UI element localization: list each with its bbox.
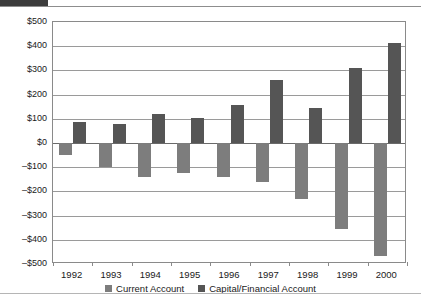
x-tick-mark-6: [289, 262, 290, 266]
x-tick-mark-0: [53, 262, 54, 266]
y-tick-label--400: –$400: [1, 234, 47, 244]
bar-1994-capital-financial-account: [152, 114, 165, 143]
bar-1997-current-account: [256, 143, 269, 182]
y-tick-label--300: –$300: [1, 210, 47, 220]
x-tick-label-2000: 2000: [363, 269, 409, 280]
x-tick-mark-3: [171, 262, 172, 266]
y-tick-label--100: –$100: [1, 161, 47, 171]
bar-1998-capital-financial-account: [309, 108, 322, 143]
bar-1993-current-account: [99, 143, 112, 167]
y-tick-label-400: $400: [1, 40, 47, 50]
legend-swatch-current: [105, 285, 112, 292]
x-tick-mark-4: [210, 262, 211, 266]
y-tick-label-0: $0: [1, 137, 47, 147]
gridline-400: [53, 46, 405, 47]
gridline--400: [53, 240, 405, 241]
y-tick-label-100: $100: [1, 113, 47, 123]
top-band-rule: [0, 6, 421, 7]
x-tick-mark-8: [368, 262, 369, 266]
bar-2000-current-account: [374, 143, 387, 256]
y-tick-label-300: $300: [1, 64, 47, 74]
bar-1993-capital-financial-account: [113, 124, 126, 143]
bottom-rule: [0, 293, 421, 294]
y-tick-label--200: –$200: [1, 185, 47, 195]
bar-1992-current-account: [59, 143, 72, 155]
bar-1992-capital-financial-account: [73, 122, 86, 143]
bar-1998-current-account: [295, 143, 308, 199]
bar-1999-current-account: [335, 143, 348, 229]
y-tick-label-200: $200: [1, 89, 47, 99]
bar-1999-capital-financial-account: [349, 68, 362, 143]
x-tick-mark-1: [92, 262, 93, 266]
plot-area: [52, 21, 406, 263]
legend-swatch-capital: [198, 285, 205, 292]
bar-2000-capital-financial-account: [388, 43, 401, 143]
gridline--300: [53, 216, 405, 217]
x-tick-mark-2: [132, 262, 133, 266]
gridline--200: [53, 191, 405, 192]
top-cutoff-band: [0, 0, 421, 8]
bar-1994-current-account: [138, 143, 151, 177]
y-tick-label-500: $500: [1, 16, 47, 26]
bar-1995-current-account: [177, 143, 190, 173]
bar-1995-capital-financial-account: [191, 118, 204, 143]
bar-1996-current-account: [217, 143, 230, 177]
x-tick-mark-end: [407, 262, 408, 266]
x-tick-mark-5: [250, 262, 251, 266]
x-tick-mark-7: [328, 262, 329, 266]
y-tick-label--500: –$500: [1, 258, 47, 268]
bar-1996-capital-financial-account: [231, 105, 244, 143]
bar-1997-capital-financial-account: [270, 80, 283, 143]
balance-of-payments-chart: $500$400$300$200$100$0–$100–$200–$300–$4…: [0, 8, 421, 294]
